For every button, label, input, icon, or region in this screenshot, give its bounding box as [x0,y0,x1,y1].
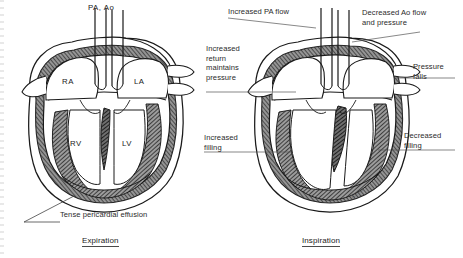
pulmonary-vein-upper [168,65,194,77]
panel-expiration-drawing [22,8,194,222]
left-atrium-cavity-inspiration [343,59,394,98]
pulmonary-vein-lower-inspiration [394,83,420,95]
label-great-vessels: PA, Ao [88,3,114,13]
label-right-atrium: RA [62,77,74,87]
label-increased-filling: Increased filling [204,133,238,152]
pulmonary-vein-lower [168,83,194,95]
label-venous-return: Increased return maintains pressure [206,44,240,82]
caption-inspiration: Inspiration [302,236,340,247]
figure-canvas: PA, Ao RA LA RV LV Tense pericardial eff… [0,0,463,258]
label-left-ventricle: LV [122,139,132,149]
pa-flow-leader-line [228,18,316,28]
ao-flow-leader-line [352,32,420,42]
label-pressure-falls: Pressure falls [413,62,444,81]
label-left-atrium: LA [134,77,145,87]
panel-inspiration-drawing [204,8,455,212]
label-pa-flow: Increased PA flow [228,7,289,17]
caption-expiration: Expiration [82,236,119,247]
label-ao-flow: Decreased Ao flow and pressure [362,8,426,27]
label-decreased-filling: Decreased filling [404,131,441,150]
label-right-ventricle: RV [70,139,82,149]
label-pericardial-effusion: Tense pericardial effusion [60,210,147,220]
